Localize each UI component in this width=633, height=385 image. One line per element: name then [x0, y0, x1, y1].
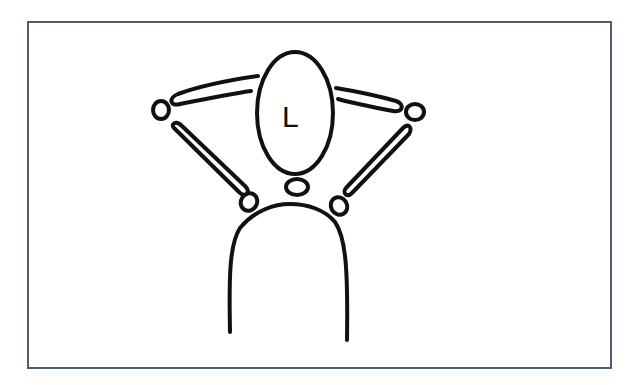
left-upper-arm [171, 76, 258, 105]
torso [230, 204, 348, 340]
right-forearm [345, 126, 411, 195]
figure-drawing: L [0, 0, 633, 385]
neck-joint [286, 179, 308, 195]
right-hand [328, 194, 351, 218]
left-forearm [173, 123, 248, 195]
right-upper-arm [336, 88, 402, 111]
left-elbow [153, 101, 169, 119]
right-elbow [406, 104, 424, 120]
head-label: L [282, 100, 299, 133]
